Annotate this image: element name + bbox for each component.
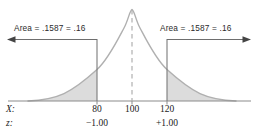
z-tick-label-plus-one: +1.00 — [156, 118, 178, 128]
right-arrowhead-icon — [243, 36, 252, 42]
x-tick-label-100: 100 — [125, 104, 139, 114]
right-tail-shaded-area — [167, 70, 236, 101]
x-tick-label-120: 120 — [160, 104, 174, 114]
x-tick-label-80: 80 — [92, 104, 102, 114]
z-tick-label-minus-one: −1.00 — [86, 118, 108, 128]
normal-distribution-figure: Area = .1587 = .16 Area = .1587 = .16 X:… — [0, 0, 259, 134]
left-area-label: Area = .1587 = .16 — [14, 23, 85, 33]
left-tail-shaded-area — [28, 70, 97, 101]
left-arrowhead-icon — [7, 36, 16, 42]
z-axis-row-label: z: — [6, 118, 13, 128]
right-area-label: Area = .1587 = .16 — [160, 23, 231, 33]
x-axis-row-label: X: — [6, 104, 15, 114]
